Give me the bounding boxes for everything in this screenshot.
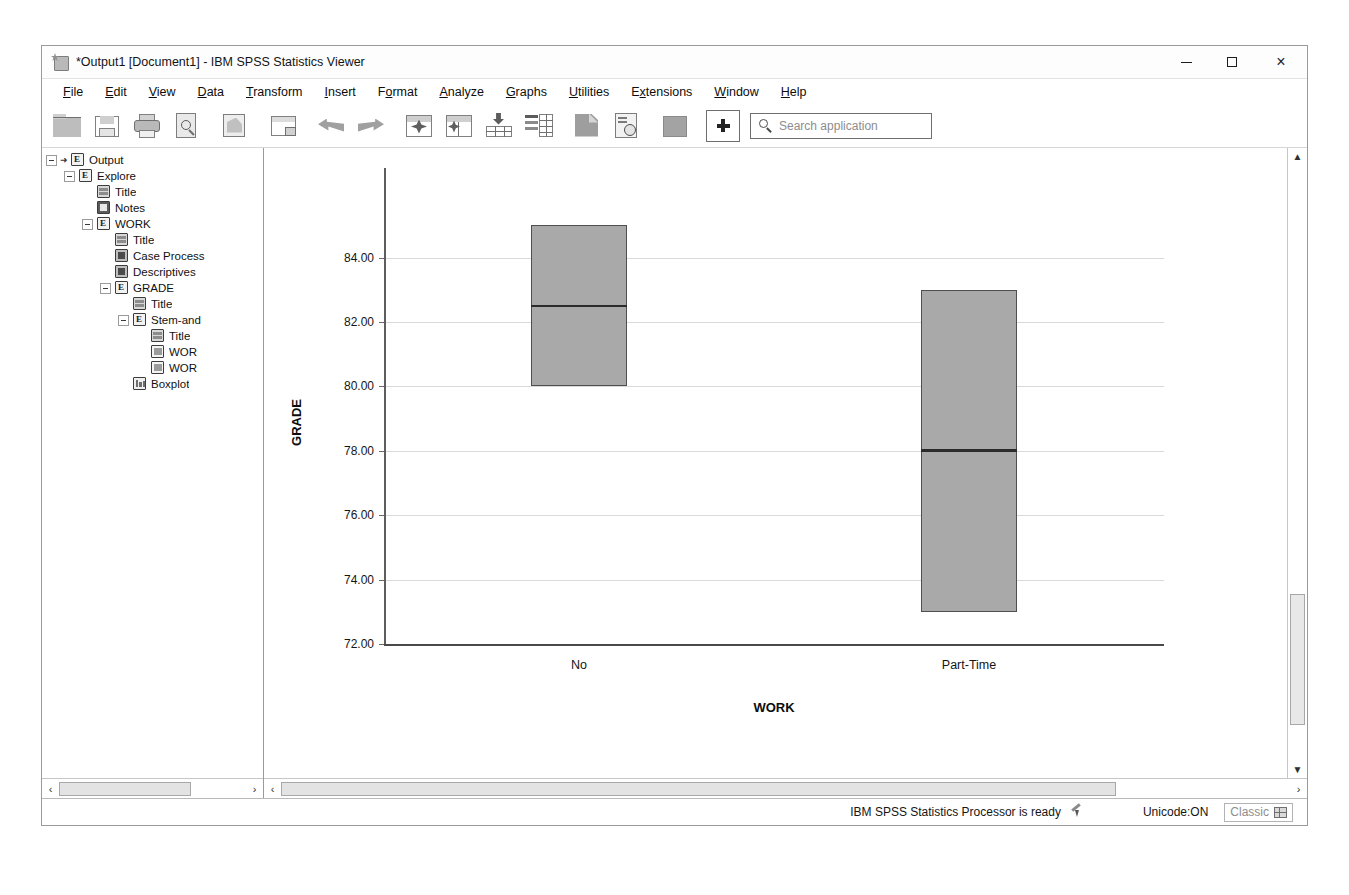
- redo-icon[interactable]: [354, 109, 388, 143]
- grid-icon: [1274, 807, 1287, 818]
- y-tick-label: 84.00: [316, 251, 374, 265]
- outline-scroll-right-arrow[interactable]: ›: [246, 780, 263, 798]
- open-file-icon[interactable]: [50, 109, 84, 143]
- viewer-vscroll-track[interactable]: [1289, 165, 1307, 761]
- split-file-icon[interactable]: [570, 109, 604, 143]
- menu-analyze[interactable]: Analyze: [428, 85, 494, 99]
- outline-node[interactable]: Title: [42, 328, 263, 344]
- maximize-button[interactable]: [1209, 46, 1255, 79]
- search-input[interactable]: Search application: [750, 113, 932, 139]
- menu-insert[interactable]: Insert: [314, 85, 367, 99]
- outline-node[interactable]: Descriptives: [42, 264, 263, 280]
- print-preview-icon[interactable]: [170, 109, 204, 143]
- outline-node[interactable]: ➜EOutput: [42, 152, 263, 168]
- screenshot-root: *Output1 [Document1] - IBM SPSS Statisti…: [0, 0, 1349, 895]
- outline-scroll-left-arrow[interactable]: ‹: [42, 780, 59, 798]
- outline-node[interactable]: Title: [42, 184, 263, 200]
- y-tick-label: 78.00: [316, 444, 374, 458]
- menu-file[interactable]: File: [52, 85, 94, 99]
- outline-node[interactable]: EExplore: [42, 168, 263, 184]
- menu-transform[interactable]: Transform: [235, 85, 314, 99]
- go-to-case-icon[interactable]: [402, 109, 436, 143]
- insert-variable-icon[interactable]: [522, 109, 556, 143]
- window-controls: ×: [1163, 46, 1307, 79]
- tree-collapse-toggle[interactable]: [100, 283, 111, 294]
- menu-bar: File Edit View Data Transform Insert For…: [42, 79, 1307, 104]
- outline-node-label: Explore: [97, 170, 136, 182]
- go-to-variable-icon[interactable]: [442, 109, 476, 143]
- outline-node-label: Title: [133, 234, 154, 246]
- minimize-button[interactable]: [1163, 46, 1209, 79]
- output-icon: E: [78, 169, 93, 183]
- menu-format[interactable]: Format: [367, 85, 429, 99]
- outline-node[interactable]: Title: [42, 296, 263, 312]
- print-icon[interactable]: [130, 109, 164, 143]
- outline-node-label: Title: [115, 186, 136, 198]
- viewer-scroll-track[interactable]: [281, 781, 1290, 797]
- body-area: ➜EOutputEExploreTitleNotesEWORKTitleCase…: [42, 148, 1307, 798]
- menu-data[interactable]: Data: [187, 85, 235, 99]
- mode-indicator[interactable]: Classic: [1224, 803, 1293, 822]
- menu-utilities[interactable]: Utilities: [558, 85, 620, 99]
- viewer-scroll-down-arrow[interactable]: ▼: [1289, 761, 1307, 778]
- value-labels-icon[interactable]: [658, 109, 692, 143]
- outline-node-label: WOR: [169, 362, 197, 374]
- menu-window[interactable]: Window: [703, 85, 769, 99]
- viewer-scroll-right-arrow[interactable]: ›: [1290, 780, 1307, 798]
- menu-view[interactable]: View: [138, 85, 187, 99]
- output-icon: E: [70, 153, 85, 167]
- viewer-vscrollbar[interactable]: ▲ ▼: [1287, 148, 1307, 778]
- outline-node[interactable]: Title: [42, 232, 263, 248]
- spss-viewer-icon: [51, 53, 69, 71]
- insert-cases-icon[interactable]: [482, 109, 516, 143]
- y-tick-label: 76.00: [316, 508, 374, 522]
- save-icon[interactable]: [90, 109, 124, 143]
- outline-node[interactable]: EGRADE: [42, 280, 263, 296]
- gridline: [384, 451, 1164, 452]
- select-cases-icon[interactable]: [610, 109, 644, 143]
- status-message: IBM SPSS Statistics Processor is ready: [850, 805, 1061, 819]
- add-button[interactable]: [706, 110, 740, 142]
- tree-collapse-toggle[interactable]: [46, 155, 57, 166]
- outline-node-label: Notes: [115, 202, 145, 214]
- outline-scroll-thumb[interactable]: [59, 782, 191, 796]
- outline-tree[interactable]: ➜EOutputEExploreTitleNotesEWORKTitleCase…: [42, 148, 263, 778]
- menu-edit[interactable]: Edit: [94, 85, 138, 99]
- search-placeholder: Search application: [779, 119, 878, 133]
- gridline: [384, 386, 1164, 387]
- outline-node-label: GRADE: [133, 282, 174, 294]
- outline-node-label: Title: [169, 330, 190, 342]
- tree-collapse-toggle[interactable]: [82, 219, 93, 230]
- outline-node[interactable]: WOR: [42, 344, 263, 360]
- viewer-hscrollbar[interactable]: ‹ ›: [264, 778, 1307, 798]
- outline-node[interactable]: Boxplot: [42, 376, 263, 392]
- viewer-scroll-left-arrow[interactable]: ‹: [264, 780, 281, 798]
- outline-node[interactable]: EWORK: [42, 216, 263, 232]
- undo-icon[interactable]: [314, 109, 348, 143]
- tree-collapse-toggle[interactable]: [64, 171, 75, 182]
- viewer-pane: 72.0074.0076.0078.0080.0082.0084.00GRADE…: [264, 148, 1307, 798]
- viewer-scroll-thumb[interactable]: [281, 782, 1116, 796]
- export-icon[interactable]: [266, 109, 300, 143]
- boxplot-median-line: [921, 449, 1017, 452]
- outline-node[interactable]: Case Process: [42, 248, 263, 264]
- outline-node[interactable]: WOR: [42, 360, 263, 376]
- gridline: [384, 580, 1164, 581]
- recall-dialogs-icon[interactable]: [218, 109, 252, 143]
- close-button[interactable]: ×: [1255, 46, 1307, 79]
- viewer-vscroll-thumb[interactable]: [1290, 594, 1305, 725]
- page-icon: [150, 361, 165, 375]
- tree-collapse-toggle[interactable]: [118, 315, 129, 326]
- menu-help[interactable]: Help: [770, 85, 818, 99]
- outline-hscrollbar[interactable]: ‹ ›: [42, 778, 263, 798]
- outline-scroll-track[interactable]: [59, 781, 246, 797]
- outline-node[interactable]: Notes: [42, 200, 263, 216]
- table-icon: [114, 249, 129, 263]
- outline-node[interactable]: EStem-and: [42, 312, 263, 328]
- viewer-scroll-up-arrow[interactable]: ▲: [1289, 148, 1307, 165]
- menu-extensions[interactable]: Extensions: [620, 85, 703, 99]
- spss-viewer-window: *Output1 [Document1] - IBM SPSS Statisti…: [41, 45, 1308, 826]
- output-canvas[interactable]: 72.0074.0076.0078.0080.0082.0084.00GRADE…: [264, 148, 1287, 778]
- outline-node-label: Stem-and: [151, 314, 201, 326]
- menu-graphs[interactable]: Graphs: [495, 85, 558, 99]
